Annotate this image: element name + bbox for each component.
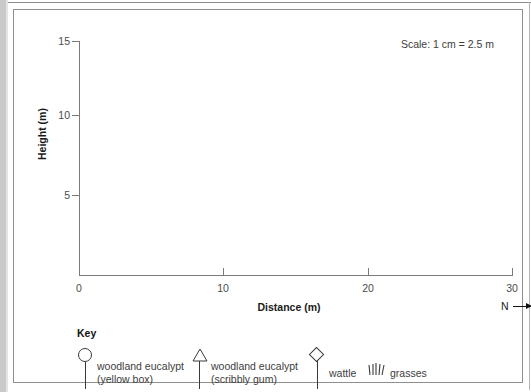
key-item-label-line1: woodland eucalypt — [211, 360, 298, 373]
grass-tuft-icon — [366, 346, 390, 390]
key-item-label-line1: woodland eucalypt — [97, 360, 184, 373]
page-frame-top-rule — [8, 2, 531, 3]
x-tick-label-10: 10 — [203, 282, 243, 294]
key-item-woodland-eucalypt-yellow-box: woodland eucalypt (yellow box) — [75, 346, 184, 390]
key-item-label-line2: (yellow box) — [97, 373, 184, 386]
x-tick-label-20: 20 — [348, 282, 388, 294]
key-item-woodland-eucalypt-scribbly-gum: woodland eucalypt (scribbly gum) — [189, 346, 298, 390]
x-axis-title: Distance (m) — [189, 301, 389, 313]
figure-page: Scale: 1 cm = 2.5 m 15 10 5 0 10 20 30 H… — [0, 0, 531, 392]
key-item-wattle: wattle — [307, 346, 356, 390]
north-arrow-icon — [513, 306, 531, 307]
x-tick-mark-0 — [79, 268, 80, 275]
x-tick-label-30: 30 — [492, 282, 531, 294]
page-gutter-edge — [6, 0, 8, 392]
key-item-grasses: grasses — [366, 346, 427, 390]
key-item-label: woodland eucalypt (scribbly gum) — [211, 346, 298, 386]
triangle-on-stem-icon — [189, 346, 211, 390]
key-title: Key — [77, 327, 96, 339]
figure-content-box: Scale: 1 cm = 2.5 m 15 10 5 0 10 20 30 H… — [13, 9, 523, 383]
diamond-on-stem-icon — [307, 346, 329, 390]
x-tick-mark-30 — [512, 268, 513, 275]
scale-note: Scale: 1 cm = 2.5 m — [401, 38, 494, 50]
key-item-label: woodland eucalypt (yellow box) — [97, 346, 184, 386]
north-indicator: N — [501, 300, 531, 312]
x-tick-mark-20 — [368, 268, 369, 275]
key-item-label: grasses — [390, 346, 427, 380]
key-item-label-line2: (scribbly gum) — [211, 373, 298, 386]
x-tick-label-0: 0 — [59, 282, 99, 294]
y-tick-mark-15 — [72, 41, 79, 42]
y-axis-line — [79, 41, 80, 276]
y-tick-mark-5 — [72, 195, 79, 196]
circle-on-stem-icon — [75, 346, 97, 390]
north-label: N — [501, 300, 509, 312]
key-item-label: wattle — [329, 346, 356, 380]
page-frame-right-rule — [529, 2, 530, 390]
y-tick-mark-10 — [72, 115, 79, 116]
y-tick-label-15: 15 — [30, 35, 70, 47]
y-axis-title: Height (m) — [36, 74, 48, 194]
x-axis-line — [79, 275, 513, 276]
x-tick-mark-10 — [223, 268, 224, 275]
